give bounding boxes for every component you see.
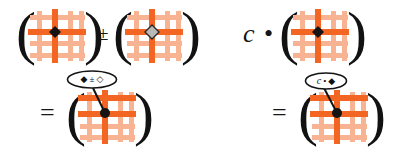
callout-scaled-bubble [304, 72, 348, 90]
callout-scaled: c • ◆ [304, 72, 348, 90]
grid-operand-b [125, 9, 187, 63]
close-paren-result-scaled: ) [366, 84, 386, 144]
close-paren-operand-b: ) [181, 3, 201, 63]
callout-sum-bubble [66, 70, 118, 89]
grid-operand-c [291, 9, 353, 63]
scalar-symbol: c [243, 21, 255, 47]
equals-operator-right: = [272, 100, 287, 126]
grid-operand-a [28, 9, 90, 63]
grid-operand-a-svg [28, 9, 90, 63]
close-paren-operand-c: ) [347, 3, 367, 63]
callout-sum: ◆ ± ◇ [66, 70, 118, 89]
figure-canvas: ( ) ± ( [0, 0, 400, 147]
grid-marker-diamond-filled [49, 26, 61, 38]
equals-operator-left: = [40, 100, 55, 126]
grid-marker-diamond-filled [312, 26, 324, 38]
plus-minus-operator: ± [98, 24, 108, 43]
dot-operator: • [264, 21, 273, 47]
grid-operand-b-svg [125, 9, 187, 63]
grid-marker-diamond-open [145, 25, 159, 39]
close-paren-result-sum: ) [134, 84, 154, 144]
grid-operand-c-svg [291, 9, 353, 63]
